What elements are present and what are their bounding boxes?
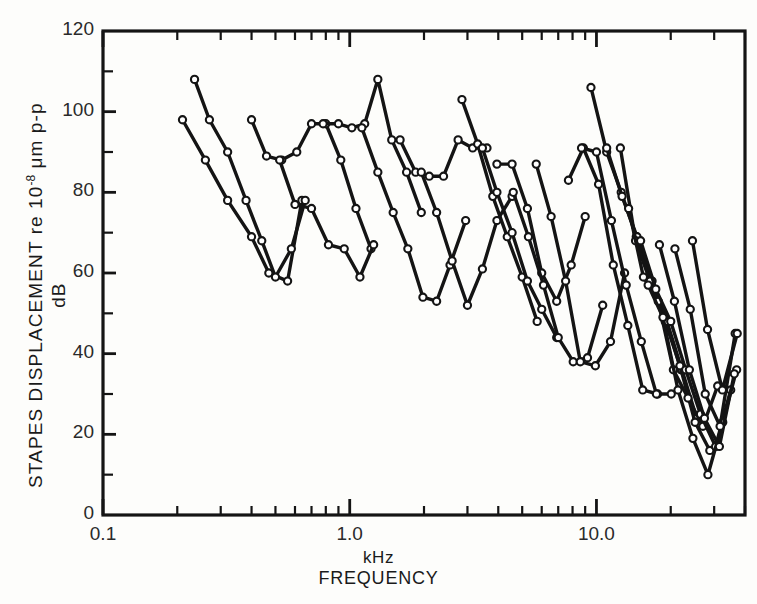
x-tick-label: 0.1 xyxy=(58,523,148,545)
data-curve xyxy=(248,116,375,252)
data-curves xyxy=(179,76,741,478)
y-tick-label: 80 xyxy=(0,179,94,201)
y-tick-label: 20 xyxy=(0,421,94,443)
x-tick-label: 1.0 xyxy=(305,523,395,545)
data-curve xyxy=(418,169,516,309)
x-axis-name-label: FREQUENCY xyxy=(0,568,757,589)
x-tick-label: 10.0 xyxy=(551,523,641,545)
y-tick-label: 120 xyxy=(0,18,94,40)
stapes-displacement-chart xyxy=(0,0,757,604)
data-curve xyxy=(191,76,309,281)
y-tick-label: 100 xyxy=(0,99,94,121)
y-tick-label: 60 xyxy=(0,260,94,282)
x-axis-unit-label: kHz xyxy=(0,548,757,568)
y-tick-label: 0 xyxy=(0,502,94,524)
x-axis-title: kHz FREQUENCY xyxy=(0,548,757,589)
y-tick-label: 40 xyxy=(0,341,94,363)
